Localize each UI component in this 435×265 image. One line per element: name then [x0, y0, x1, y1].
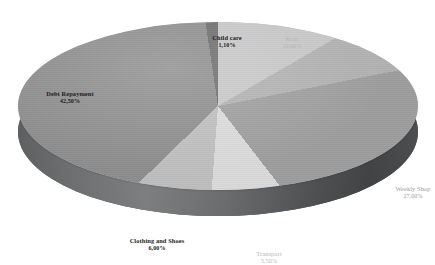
slice-label-name: Debt Repayment [20, 90, 120, 98]
slice-label-name: Utilities [338, 60, 412, 68]
slice-label-clothing-and-shoes: Clothing and Shoes 6,00% [108, 237, 206, 252]
slice-label-percent: 8,00% [338, 68, 412, 75]
slice-label-name: Weekly Shop [376, 185, 435, 193]
slice-label-percent: 27,00% [376, 193, 435, 200]
slice-label-percent: 6,00% [108, 245, 206, 252]
slice-label-name: Clothing and Shoes [108, 237, 206, 245]
slice-label-percent: 42,50% [20, 98, 120, 105]
slice-label-weekly-shop: Weekly Shop 27,00% [376, 185, 435, 200]
slice-label-utilities: Utilities 8,00% [338, 60, 412, 75]
slice-label-rent: Rent 10,00% [256, 35, 328, 50]
slice-label-percent: 5,50% [230, 258, 308, 265]
slice-label-debt-repayment: Debt Repayment 42,50% [20, 90, 120, 105]
slice-label-name: Transport [230, 250, 308, 258]
pie-chart-graphic: Child care 1,10% Rent 10,00% Utilities 8… [18, 22, 418, 237]
slice-label-percent: 10,00% [256, 43, 328, 50]
slice-label-name: Rent [256, 35, 328, 43]
slice-label-transport: Transport 5,50% [230, 250, 308, 265]
